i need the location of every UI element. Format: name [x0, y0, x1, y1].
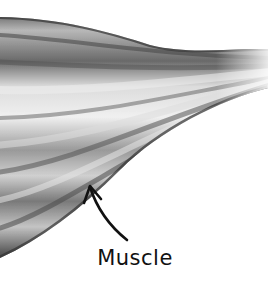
muscle-label: Muscle [90, 246, 180, 270]
